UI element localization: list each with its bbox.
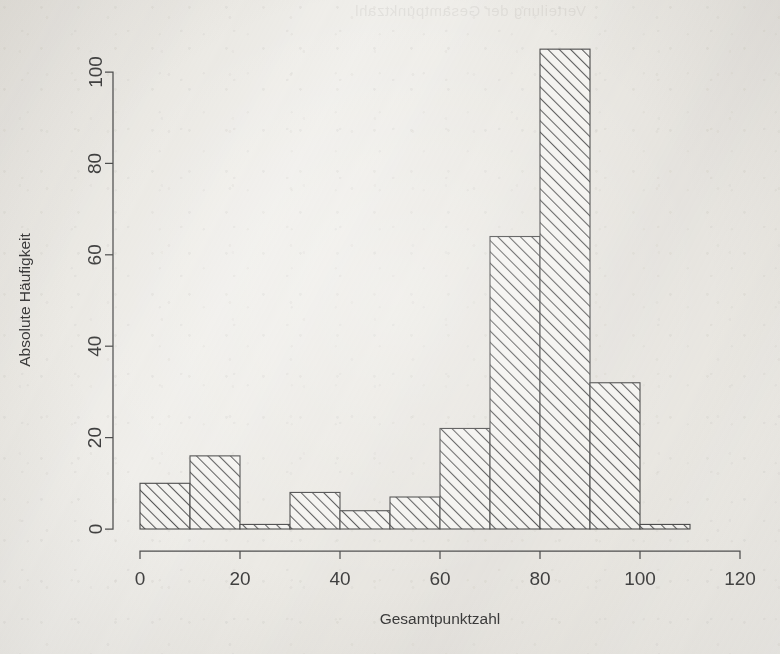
x-tick-label: 120 (724, 568, 756, 589)
y-tick-label: 40 (85, 336, 106, 357)
histogram-bar (490, 237, 540, 529)
y-axis: 020406080100 (85, 56, 114, 534)
histogram-bar (290, 492, 340, 529)
bars-group (140, 49, 690, 529)
x-axis-ticks: 020406080100120 (135, 551, 756, 589)
histogram-figure: 020406080100120 020406080100 Gesamtpunkt… (0, 0, 780, 654)
x-tick-label: 0 (135, 568, 146, 589)
x-tick-label: 80 (529, 568, 550, 589)
histogram-bar (190, 456, 240, 529)
y-tick-label: 80 (85, 153, 106, 174)
x-tick-label: 20 (229, 568, 250, 589)
y-axis-ticks: 020406080100 (85, 56, 114, 534)
x-axis: 020406080100120 (135, 551, 756, 589)
x-tick-label: 100 (624, 568, 656, 589)
histogram-canvas: 020406080100120 020406080100 Gesamtpunkt… (0, 0, 780, 654)
x-axis-title: Gesamtpunktzahl (380, 610, 501, 627)
histogram-bar (140, 483, 190, 529)
histogram-bar (340, 511, 390, 529)
histogram-bar (540, 49, 590, 529)
histogram-bar (440, 428, 490, 529)
histogram-bar (240, 524, 290, 529)
y-tick-label: 60 (85, 244, 106, 265)
y-tick-label: 0 (85, 524, 106, 535)
x-tick-label: 60 (429, 568, 450, 589)
x-tick-label: 40 (329, 568, 350, 589)
histogram-bar (390, 497, 440, 529)
histogram-bar (640, 524, 690, 529)
y-axis-title: Absolute Häufigkeit (16, 233, 33, 367)
y-tick-label: 20 (85, 427, 106, 448)
y-tick-label: 100 (85, 56, 106, 88)
y-axis-line (105, 72, 113, 529)
histogram-bar (590, 383, 640, 529)
